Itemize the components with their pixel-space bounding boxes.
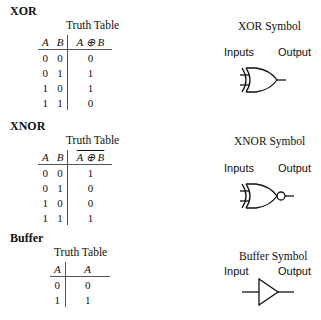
table-row: 1 1 0 — [38, 95, 112, 110]
xnor-heading: XNOR — [10, 119, 45, 134]
header-a: A — [38, 35, 53, 50]
xnor-gate-icon — [240, 182, 296, 212]
cell: 1 — [68, 165, 113, 181]
table-row: 1 0 0 — [38, 195, 112, 210]
xor-truth-table: A B A ⊕ B 0 0 0 0 1 1 1 0 1 1 1 0 — [38, 35, 112, 110]
cell: 1 — [50, 292, 65, 307]
cell: 0 — [53, 80, 68, 95]
cell: 0 — [38, 65, 53, 80]
buffer-gate-icon — [242, 278, 297, 308]
cell: 1 — [65, 292, 110, 307]
cell: 1 — [53, 180, 68, 195]
xor-heading: XOR — [10, 4, 37, 19]
table-row: 1 1 1 — [38, 210, 112, 225]
cell: 1 — [38, 195, 53, 210]
cell: 0 — [50, 277, 65, 293]
cell: 1 — [53, 210, 68, 225]
buffer-output-label: Output — [278, 265, 311, 277]
cell: 1 — [38, 80, 53, 95]
table-row: 0 0 — [50, 277, 110, 293]
cell: 1 — [38, 210, 53, 225]
xnor-truth-table-title: Truth Table — [66, 134, 119, 146]
cell: 1 — [53, 65, 68, 80]
cell: 0 — [38, 50, 53, 66]
table-row: 1 1 — [50, 292, 110, 307]
buffer-heading: Buffer — [10, 231, 43, 246]
header-a: A — [38, 150, 53, 165]
xor-inputs-label: Inputs — [224, 46, 254, 58]
buffer-input-label: Input — [224, 265, 248, 277]
header-output-overlined: A ⊕ B — [68, 150, 113, 165]
xor-truth-table-title: Truth Table — [66, 19, 119, 31]
table-row: 0 1 1 — [38, 65, 112, 80]
cell: 0 — [38, 165, 53, 181]
cell: 0 — [38, 180, 53, 195]
buffer-symbol-title: Buffer Symbol — [239, 250, 307, 262]
xnor-output-label: Output — [278, 162, 311, 174]
cell: 0 — [68, 50, 113, 66]
cell: 1 — [53, 95, 68, 110]
cell: 0 — [53, 50, 68, 66]
xnor-truth-table: A B A ⊕ B 0 0 1 0 1 0 1 0 0 1 1 1 — [38, 150, 112, 225]
xnor-symbol-title: XNOR Symbol — [234, 135, 305, 147]
header-b: B — [53, 35, 68, 50]
cell: 0 — [53, 165, 68, 181]
cell: 0 — [68, 95, 113, 110]
xor-symbol-title: XOR Symbol — [238, 20, 301, 32]
cell: 1 — [68, 65, 113, 80]
header-output: A ⊕ B — [68, 35, 113, 50]
header-input: A — [50, 262, 65, 277]
cell: 0 — [68, 180, 113, 195]
cell: 0 — [65, 277, 110, 293]
table-row: 0 1 0 — [38, 180, 112, 195]
xor-output-label: Output — [278, 46, 311, 58]
header-output: A — [65, 262, 110, 277]
cell: 0 — [68, 195, 113, 210]
cell: 0 — [53, 195, 68, 210]
cell: 1 — [38, 95, 53, 110]
header-b: B — [53, 150, 68, 165]
xor-gate-icon — [240, 66, 290, 96]
buffer-truth-table-title: Truth Table — [54, 246, 107, 258]
table-row: 1 0 1 — [38, 80, 112, 95]
table-row: 0 0 1 — [38, 165, 112, 181]
xnor-inputs-label: Inputs — [224, 162, 254, 174]
table-row: 0 0 0 — [38, 50, 112, 66]
buffer-truth-table: A A 0 0 1 1 — [50, 262, 110, 307]
cell: 1 — [68, 210, 113, 225]
cell: 1 — [68, 80, 113, 95]
